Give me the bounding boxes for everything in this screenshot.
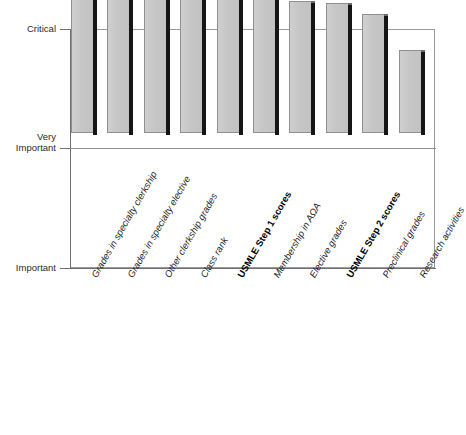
bar-shadow-edge (166, 0, 170, 135)
bar-body (180, 0, 202, 133)
bar-1 (71, 0, 97, 133)
bar-6 (253, 0, 279, 133)
bar-body (217, 0, 239, 133)
bar-7 (289, 1, 315, 133)
bar-shadow-edge (421, 52, 425, 135)
bar-8 (326, 3, 352, 133)
bar-body (144, 0, 166, 133)
bar-body (289, 1, 311, 133)
bar-body (107, 0, 129, 133)
bar-4 (180, 0, 206, 133)
bar-shadow-edge (239, 0, 243, 135)
bar-shadow-edge (129, 0, 133, 135)
bar-shadow-edge (93, 0, 97, 135)
bar-shadow-edge (311, 3, 315, 135)
bar-body (399, 50, 421, 133)
bar-shadow-edge (348, 5, 352, 135)
x-axis-labels: Grades in specialty clerkshipGrades in s… (0, 268, 452, 435)
bar-9 (362, 14, 388, 133)
bar-shadow-edge (202, 0, 206, 135)
bar-5 (217, 0, 243, 133)
bar-shadow-edge (275, 0, 279, 135)
bar-10 (399, 50, 425, 133)
bar-body (253, 0, 275, 133)
bar-shadow-edge (384, 16, 388, 135)
bar-2 (107, 0, 133, 133)
bar-3 (144, 0, 170, 133)
bar-series (0, 0, 452, 300)
bar-body (71, 0, 93, 133)
bar-body (362, 14, 384, 133)
bar-body (326, 3, 348, 133)
